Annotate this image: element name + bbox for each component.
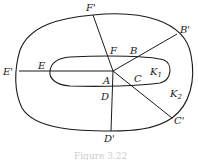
label-e-prime: E' <box>2 66 13 77</box>
label-k2: K2 <box>169 88 182 101</box>
label-k1: K1 <box>149 66 162 79</box>
ray-a-f-prime <box>93 15 113 71</box>
label-b: B <box>129 45 137 56</box>
diagram-canvas: F' B' F B E' E A C D D' C' K1 K2 Figure … <box>0 0 198 160</box>
label-a: A <box>102 75 110 86</box>
label-d: D <box>100 91 109 102</box>
ray-a-c-prime <box>113 71 172 118</box>
label-f-prime: F' <box>85 2 96 13</box>
figure-caption: Figure 3.22 <box>74 151 127 160</box>
label-e: E <box>37 60 46 71</box>
ray-a-d-prime <box>111 71 113 131</box>
label-b-prime: B' <box>179 24 190 35</box>
label-d-prime: D' <box>103 133 115 144</box>
ray-a-b-prime <box>113 34 177 71</box>
label-c: C <box>134 73 142 84</box>
label-c-prime: C' <box>174 115 184 126</box>
label-f: F <box>109 45 118 56</box>
